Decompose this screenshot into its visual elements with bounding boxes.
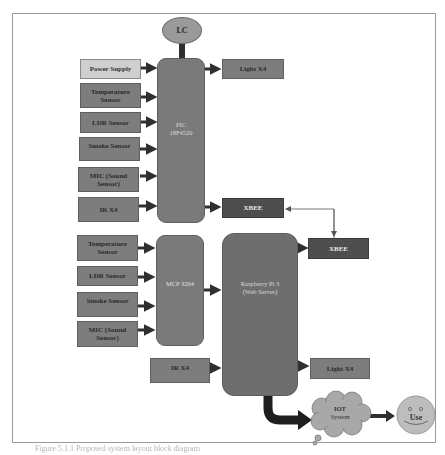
temperature-sensor-box: Temperature Sensor <box>80 83 141 108</box>
power-supply-box: Power Supply <box>80 59 141 79</box>
smoke-sensor-box-2: Smoke Sensor <box>77 292 138 317</box>
ir-x4-box: IR X4 <box>78 197 139 222</box>
mcp-input-arrows <box>138 248 151 330</box>
lc-connector <box>179 43 185 59</box>
pic-microcontroller-block: PIC 18F4520 <box>157 58 205 223</box>
pic-model: 18F4520 <box>169 129 192 137</box>
pic-output-arrows <box>205 69 217 207</box>
figure-caption: Figure 5.1.1 Proposed system layout bloc… <box>35 444 200 453</box>
smoke-sensor-box: Smoke Sensor <box>79 137 140 161</box>
rpi-output-arrows <box>298 248 305 366</box>
rpi-role: (Web Server) <box>241 288 280 296</box>
xbee-box-top: XBEE <box>222 198 284 218</box>
mic-sound-sensor-box: MIC (Sound Sensor) <box>78 167 139 192</box>
light-x4-box-2: Light X4 <box>310 358 370 379</box>
ir-x4-box-2: IR X4 <box>150 358 210 383</box>
iot-label-line2: System <box>320 413 360 421</box>
ldr-sensor-box-2: LDR Sensor <box>77 266 138 286</box>
iot-label-line1: IOT <box>320 405 360 413</box>
light-x4-box: Light X4 <box>222 59 284 79</box>
pic-label: PIC <box>169 121 192 129</box>
temperature-sensor-box-2: Temperature Sensor <box>77 235 138 261</box>
raspberry-pi-block: Raspberry Pi 3 (Web Server) <box>222 233 298 396</box>
lc-node: LC <box>162 17 202 44</box>
xbee-box-bottom: XBEE <box>308 238 369 259</box>
iot-system-label: IOT System <box>320 405 360 421</box>
mic-sound-sensor-box-2: MIC (Sound Sensor) <box>77 321 138 347</box>
pic-input-arrows <box>139 68 153 206</box>
ldr-sensor-box: LDR Sensor <box>80 112 141 133</box>
rpi-input-arrows <box>204 290 217 368</box>
user-label: Use <box>404 413 428 422</box>
rpi-label: Raspberry Pi 3 <box>241 280 280 288</box>
cloud-arrow <box>268 395 300 420</box>
mcp3204-adc-block: MCP 3204 <box>156 235 204 346</box>
